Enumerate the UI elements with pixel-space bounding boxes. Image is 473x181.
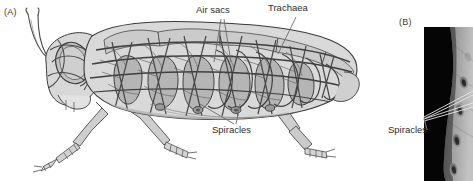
label-trachaea: Trachaea [268,2,308,13]
figure-container: (A) [0,0,473,181]
grasshopper-diagram [0,0,390,181]
label-spiracles-diagram: Spiracles [212,124,251,135]
label-air-sacs: Air sacs [196,4,230,15]
label-spiracles-photo: Spiracles [388,124,427,135]
panel-b: (B) [390,0,473,181]
front-leg [33,102,108,172]
panel-b-leaders [390,0,473,181]
panel-a: (A) [0,0,390,181]
body [84,22,359,121]
